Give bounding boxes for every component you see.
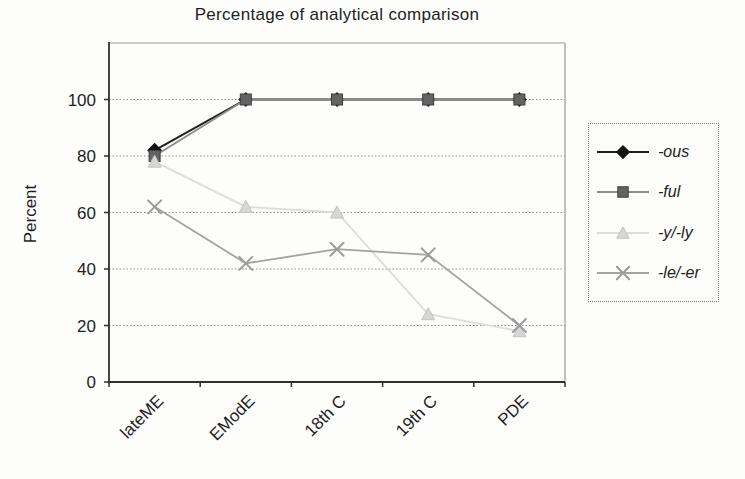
legend-item-ous: -ous	[595, 142, 712, 162]
legend-label: -ful	[658, 183, 680, 201]
y-tick-label-80: 80	[77, 147, 96, 166]
legend-label: -le/-er	[658, 264, 700, 282]
legend-item-leer: -le/-er	[595, 263, 712, 283]
legend-item-ful: -ful	[595, 182, 712, 202]
diamond-marker-icon	[595, 142, 651, 162]
y-tick-label-20: 20	[77, 317, 96, 336]
x-marker-icon	[595, 263, 651, 283]
square-marker-icon	[595, 182, 651, 202]
data-point-ful-EModE	[240, 94, 251, 105]
y-tick-label-60: 60	[77, 204, 96, 223]
y-tick-label-100: 100	[68, 91, 96, 110]
chart-legend: -ous-ful-y/-ly-le/-er	[588, 123, 719, 302]
y-tick-label-40: 40	[77, 260, 96, 279]
x-tick-label-2: 18th C	[301, 391, 350, 440]
x-tick-label-3: 19th C	[392, 391, 441, 440]
y-tick-label-0: 0	[87, 373, 96, 392]
series-line-ous	[155, 100, 520, 151]
data-point-leer-lateME	[148, 200, 161, 213]
legend-item-yly: -y/-ly	[595, 223, 712, 243]
legend-label: -ous	[658, 143, 689, 161]
legend-label: -y/-ly	[658, 224, 693, 242]
series-line-leer	[155, 207, 520, 326]
series-line-ful	[155, 100, 520, 157]
x-tick-label-1: EModE	[206, 391, 259, 444]
x-tick-label-0: lateME	[117, 391, 168, 442]
series-line-yly	[155, 162, 520, 332]
scanned-line-chart-figure: Percentage of analytical comparison Perc…	[0, 0, 745, 479]
data-point-ful-PDE	[514, 94, 525, 105]
data-point-ful-18thC	[332, 94, 343, 105]
data-point-ful-19thC	[423, 94, 434, 105]
x-tick-label-4: PDE	[494, 391, 532, 429]
triangle-marker-icon	[595, 223, 651, 243]
